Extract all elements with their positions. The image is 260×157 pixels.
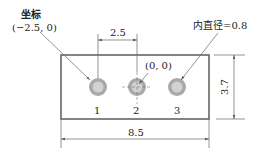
- origin-value: (0, 0): [145, 61, 172, 71]
- coordinate-label: 坐标: [21, 10, 41, 20]
- hole-label-1: 1: [94, 106, 100, 116]
- hole-3: [168, 78, 186, 96]
- inner-diameter-label: 内直径=0.8: [193, 21, 247, 31]
- height-value: 3.7: [220, 79, 230, 95]
- hole-label-3: 3: [174, 106, 180, 116]
- diameter-leader: [181, 33, 218, 80]
- width-value: 8.5: [128, 128, 144, 138]
- coordinate-leader: [40, 32, 90, 80]
- center-lines: [122, 72, 152, 104]
- hole-1: [89, 78, 107, 96]
- spacing-dimension: [98, 34, 137, 78]
- spacing-value: 2.5: [110, 28, 126, 38]
- hole-label-2: 2: [133, 106, 139, 116]
- coordinate-value: (−2.5, 0): [12, 23, 57, 33]
